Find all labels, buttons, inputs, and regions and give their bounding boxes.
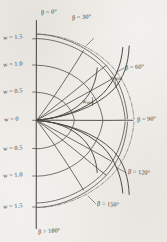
w-max-label: wmax — [110, 74, 123, 81]
w-tick-label-0: w = 0 — [4, 115, 19, 122]
beta-60-label: β = 60° — [125, 63, 144, 71]
beta-0-label: β = 0° — [41, 8, 57, 15]
w-min-label: wmin — [82, 98, 94, 105]
beta-90-label: β = 90° — [137, 115, 156, 123]
w-min-label-sub: min — [87, 100, 94, 105]
w-contour-arcs-lower — [37, 121, 128, 207]
w-max-label-sub: max — [115, 76, 123, 82]
beta-30-label: β = 30° — [72, 13, 91, 21]
polar-diagram-figure: β = 30° β = 0° β = 60° β = 90° β = 120° … — [0, 0, 167, 242]
